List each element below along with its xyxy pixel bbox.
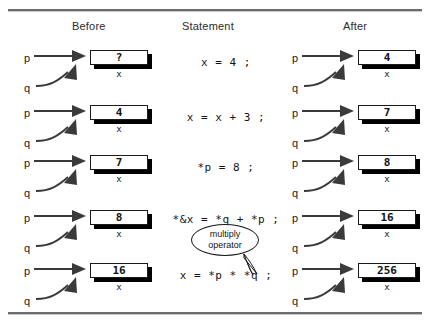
pointer-arrows xyxy=(300,45,362,95)
pointer-label-q: q xyxy=(292,243,298,254)
pointer-label-p: p xyxy=(292,158,298,169)
variable-value: 7 xyxy=(91,156,147,169)
variable-value: 7 xyxy=(359,106,415,119)
diagram-row: p q ? x x = 4 ; p q 4 xyxy=(0,45,430,95)
pointer-label-q: q xyxy=(24,188,30,199)
diagram-row: p q 16 x x = *p * *q ; p q xyxy=(0,258,430,308)
diagram-row: p q 4 x x = x + 3 ; p q xyxy=(0,100,430,150)
variable-name-label: x xyxy=(90,69,148,79)
variable-value: 8 xyxy=(359,156,415,169)
pointer-label-q: q xyxy=(292,188,298,199)
after-pointer-group: p q 7 x xyxy=(292,100,430,150)
pointer-label-q: q xyxy=(24,83,30,94)
pointer-label-q: q xyxy=(292,296,298,307)
variable-box: 8 xyxy=(90,210,148,225)
pointer-diagram-figure: Before Statement After p q ? x x = 4 ; p… xyxy=(0,0,430,327)
before-pointer-group: p q 7 x xyxy=(24,150,174,200)
column-header-statement: Statement xyxy=(182,20,234,32)
pointer-label-p: p xyxy=(292,213,298,224)
top-divider-rule xyxy=(8,9,422,12)
pointer-label-q: q xyxy=(24,138,30,149)
variable-box: 8 xyxy=(358,155,416,170)
pointer-arrows xyxy=(300,100,362,150)
variable-value: ? xyxy=(91,51,147,64)
pointer-arrows xyxy=(300,150,362,200)
variable-value: 256 xyxy=(359,264,415,277)
before-pointer-group: p q 8 x xyxy=(24,205,174,255)
pointer-label-q: q xyxy=(292,138,298,149)
pointer-label-p: p xyxy=(24,158,30,169)
variable-name-label: x xyxy=(90,229,148,239)
variable-name-label: x xyxy=(358,282,416,292)
variable-value: 8 xyxy=(91,211,147,224)
pointer-arrows xyxy=(32,150,94,200)
statement-text: x = x + 3 ; xyxy=(160,111,292,124)
pointer-label-p: p xyxy=(24,53,30,64)
diagram-row: p q 7 x *p = 8 ; p q 8 xyxy=(0,150,430,200)
variable-box: 4 xyxy=(90,105,148,120)
variable-box: 4 xyxy=(358,50,416,65)
pointer-label-p: p xyxy=(292,266,298,277)
variable-value: 16 xyxy=(359,211,415,224)
pointer-arrows xyxy=(32,205,94,255)
variable-value: 16 xyxy=(91,264,147,277)
variable-value: 4 xyxy=(91,106,147,119)
before-pointer-group: p q 4 x xyxy=(24,100,174,150)
variable-name-label: x xyxy=(90,124,148,134)
variable-box: 7 xyxy=(358,105,416,120)
after-pointer-group: p q 16 x xyxy=(292,205,430,255)
pointer-label-p: p xyxy=(24,266,30,277)
variable-name-label: x xyxy=(358,229,416,239)
variable-box: ? xyxy=(90,50,148,65)
variable-box: 16 xyxy=(90,263,148,278)
variable-name-label: x xyxy=(358,124,416,134)
pointer-label-q: q xyxy=(24,296,30,307)
bottom-divider-rule xyxy=(8,312,422,315)
variable-name-label: x xyxy=(358,174,416,184)
pointer-arrows xyxy=(300,258,362,308)
after-pointer-group: p q 8 x xyxy=(292,150,430,200)
column-header-before: Before xyxy=(72,20,106,32)
after-pointer-group: p q 4 x xyxy=(292,45,430,95)
after-pointer-group: p q 256 x xyxy=(292,258,430,308)
pointer-label-p: p xyxy=(24,213,30,224)
variable-name-label: x xyxy=(90,282,148,292)
statement-text: x = 4 ; xyxy=(160,56,292,69)
pointer-arrows xyxy=(32,100,94,150)
callout-text: multiply operator xyxy=(191,224,259,256)
variable-box: 16 xyxy=(358,210,416,225)
variable-value: 4 xyxy=(359,51,415,64)
variable-name-label: x xyxy=(358,69,416,79)
multiply-operator-callout: multiply operator xyxy=(191,224,259,256)
pointer-label-q: q xyxy=(24,243,30,254)
pointer-arrows xyxy=(32,258,94,308)
callout-line-2: operator xyxy=(208,240,242,251)
variable-name-label: x xyxy=(90,174,148,184)
before-pointer-group: p q ? x xyxy=(24,45,174,95)
callout-line-1: multiply xyxy=(210,229,241,240)
pointer-label-p: p xyxy=(292,108,298,119)
variable-box: 7 xyxy=(90,155,148,170)
before-pointer-group: p q 16 x xyxy=(24,258,174,308)
statement-text: x = *p * *q ; xyxy=(160,269,292,282)
pointer-label-p: p xyxy=(292,53,298,64)
pointer-arrows xyxy=(300,205,362,255)
pointer-label-q: q xyxy=(292,83,298,94)
column-header-after: After xyxy=(343,20,367,32)
variable-box: 256 xyxy=(358,263,416,278)
pointer-arrows xyxy=(32,45,94,95)
pointer-label-p: p xyxy=(24,108,30,119)
statement-text: *p = 8 ; xyxy=(160,161,292,174)
